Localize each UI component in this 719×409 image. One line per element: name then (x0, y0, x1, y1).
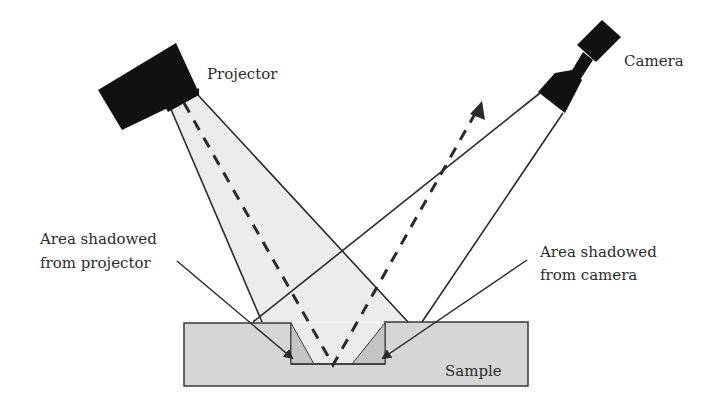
projector-camera-shadow-diagram (0, 0, 719, 409)
projector-beam (170, 95, 408, 322)
shadow-camera-label-line1: Area shadowed (540, 243, 657, 262)
shadow-projector-label-line2: from projector (40, 254, 151, 273)
camera-icon (538, 20, 621, 113)
camera-label: Camera (624, 52, 684, 71)
projector-label: Projector (207, 65, 277, 84)
sample-label: Sample (445, 362, 502, 381)
shadow-camera-label-line2: from camera (540, 266, 637, 285)
camera-right-line (422, 113, 563, 322)
shadow-projector-label-line1: Area shadowed (40, 230, 157, 249)
